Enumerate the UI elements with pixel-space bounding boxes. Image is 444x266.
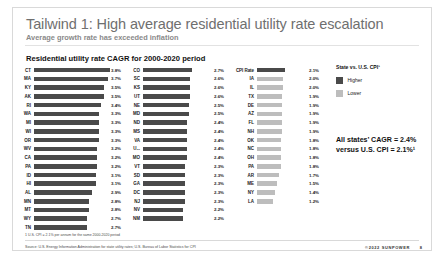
page-number: 8 bbox=[420, 245, 422, 250]
bar-fill bbox=[34, 112, 100, 117]
bar-track bbox=[257, 164, 308, 169]
slide-canvas: Tailwind 1: High average residential uti… bbox=[0, 0, 444, 266]
bar-state-label: NJ bbox=[127, 199, 143, 204]
bar-track bbox=[34, 190, 110, 195]
bar-state-label: PA bbox=[18, 164, 34, 169]
bar-row: PA3.2% bbox=[18, 162, 124, 170]
bar-state-label: MI bbox=[18, 120, 34, 125]
bar-value-label: 3.3% bbox=[110, 120, 125, 125]
bar-row: AL2.9% bbox=[18, 188, 124, 196]
bar-fill bbox=[257, 173, 280, 178]
bar-fill bbox=[143, 120, 187, 125]
bar-row: NM2.2% bbox=[127, 214, 227, 222]
bar-value-label: 3.4% bbox=[110, 103, 125, 108]
bar-row: IL2.0% bbox=[230, 83, 322, 91]
bar-value-label: 1.9% bbox=[308, 94, 323, 99]
bar-fill bbox=[257, 190, 276, 195]
bar-fill bbox=[257, 85, 284, 90]
bar-value-label: 2.4% bbox=[213, 146, 228, 151]
bar-fill bbox=[257, 120, 283, 125]
bar-track bbox=[34, 138, 110, 143]
bar-column-3: CPI Rate2.1%IA2.0%IL2.0%TX1.9%DE1.9%AZ1.… bbox=[230, 66, 322, 206]
bar-state-label: SC bbox=[127, 76, 143, 81]
bar-fill bbox=[143, 94, 191, 99]
bar-row: SC2.6% bbox=[127, 75, 227, 83]
bar-state-label: WI bbox=[18, 129, 34, 134]
bar-value-label: 2.3% bbox=[213, 164, 228, 169]
legend-item-lower: Lower bbox=[336, 90, 422, 97]
bar-row: NC1.8% bbox=[230, 145, 322, 153]
bar-row: WA3.3% bbox=[18, 110, 124, 118]
bar-row: AK3.5% bbox=[18, 92, 124, 100]
bar-fill bbox=[257, 147, 281, 152]
bar-track bbox=[143, 94, 213, 99]
bar-value-label: 1.8% bbox=[308, 146, 323, 151]
bar-track bbox=[34, 129, 110, 134]
bar-state-label: AK bbox=[18, 94, 34, 99]
bar-track bbox=[34, 94, 110, 99]
bar-value-label: 2.0% bbox=[308, 85, 323, 90]
bar-row: MS2.4% bbox=[127, 127, 227, 135]
bar-value-label: 2.2% bbox=[213, 207, 228, 212]
bar-track bbox=[143, 85, 213, 90]
chart-title: Residential utility rate CAGR for 2000-2… bbox=[26, 54, 205, 63]
bar-track bbox=[143, 77, 213, 82]
bar-track bbox=[34, 164, 110, 169]
bar-state-label: GA bbox=[127, 181, 143, 186]
bar-track bbox=[34, 147, 110, 152]
bar-value-label: 1.4% bbox=[308, 190, 323, 195]
bar-fill bbox=[143, 164, 185, 169]
bar-column-1: CT3.8%MA3.7%KY3.5%AK3.5%RI3.4%WA3.3%MI3.… bbox=[18, 66, 124, 232]
bar-row: UT2.6% bbox=[127, 92, 227, 100]
bar-row: WI3.3% bbox=[18, 127, 124, 135]
bar-track bbox=[257, 155, 308, 160]
bar-row: AZ1.9% bbox=[230, 110, 322, 118]
bar-value-label: 1.9% bbox=[308, 120, 323, 125]
callout-line-2: versus U.S. CPI = 2.1%¹ bbox=[336, 145, 434, 155]
bar-fill bbox=[34, 208, 90, 213]
bar-column-2: CO2.7%SC2.6%KS2.6%UT2.6%NE2.5%MD2.5%ND2.… bbox=[127, 66, 227, 223]
bar-fill bbox=[257, 129, 283, 134]
bar-track bbox=[257, 138, 308, 143]
bar-row: TN2.7% bbox=[18, 223, 124, 231]
bar-state-label: OK bbox=[230, 138, 257, 143]
bar-value-label: 1.2% bbox=[308, 199, 323, 204]
bar-state-label: OH bbox=[230, 155, 257, 160]
legend-swatch-lower-icon bbox=[336, 90, 343, 97]
bar-fill bbox=[257, 155, 281, 160]
bar-value-label: 3.1% bbox=[110, 173, 125, 178]
bar-state-label: WY bbox=[18, 216, 34, 221]
bar-row: NE2.5% bbox=[127, 101, 227, 109]
bar-state-label: RI bbox=[18, 103, 34, 108]
bar-value-label: 2.2% bbox=[213, 216, 228, 221]
bar-state-label: UT bbox=[127, 94, 143, 99]
bar-row: MI3.3% bbox=[18, 118, 124, 126]
bar-value-label: 2.3% bbox=[213, 190, 228, 195]
bar-row: VA2.4% bbox=[127, 136, 227, 144]
bar-state-label: FL bbox=[230, 120, 257, 125]
bar-track bbox=[257, 129, 308, 134]
bar-fill bbox=[257, 103, 283, 108]
bar-track bbox=[34, 181, 110, 186]
bar-state-label: MO bbox=[127, 155, 143, 160]
bar-row: FL1.9% bbox=[230, 118, 322, 126]
bar-track bbox=[34, 68, 110, 73]
bar-value-label: 2.4% bbox=[213, 129, 228, 134]
bar-track bbox=[34, 112, 110, 117]
bar-fill bbox=[34, 68, 110, 73]
bar-fill bbox=[143, 181, 185, 186]
bar-state-label: VA bbox=[127, 138, 143, 143]
chart-legend: State vs. U.S. CPI¹ Higher Lower bbox=[336, 64, 422, 103]
bar-row: TX1.9% bbox=[230, 92, 322, 100]
bar-state-label: WV bbox=[18, 146, 34, 151]
callout-line-1: All states’ CAGR = 2.4% bbox=[336, 135, 434, 145]
bar-track bbox=[34, 208, 110, 213]
bar-row: ME1.5% bbox=[230, 180, 322, 188]
bar-value-label: 3.3% bbox=[110, 111, 125, 116]
bar-value-label: 1.8% bbox=[308, 164, 323, 169]
bar-fill bbox=[34, 225, 88, 230]
bar-track bbox=[143, 68, 213, 73]
bar-track bbox=[143, 138, 213, 143]
bar-row: KS2.6% bbox=[127, 83, 227, 91]
bar-row: MA3.7% bbox=[18, 75, 124, 83]
